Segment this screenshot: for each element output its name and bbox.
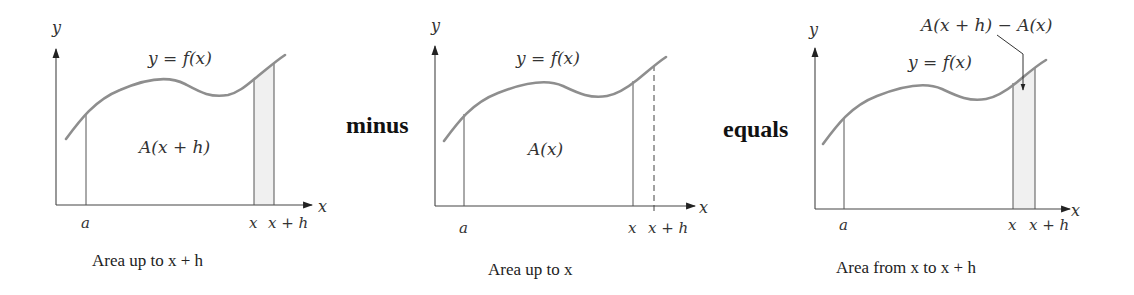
y-axis-label: y xyxy=(808,20,819,39)
tick-label-x: x xyxy=(1008,216,1017,234)
tick-label-x-plus-h: x + h xyxy=(648,219,688,237)
panel-area-up-to-x: y x y = f(x) A(x) a x x + h Area up to x xyxy=(430,16,708,279)
curve-label: y = f(x) xyxy=(147,48,212,68)
x-axis-label: x xyxy=(1071,201,1080,220)
curve-label: y = f(x) xyxy=(515,48,580,68)
operator-minus: minus xyxy=(346,112,409,138)
panel-area-up-to-x-plus-h: y x y = f(x) A(x + h) a x x + h Area up … xyxy=(51,18,327,270)
tick-label-x: x xyxy=(628,219,637,237)
y-axis-label: y xyxy=(430,16,441,35)
tick-label-a: a xyxy=(459,219,468,237)
fundamental-theorem-diagram: y x y = f(x) A(x + h) a x x + h Area up … xyxy=(0,0,1134,295)
caption: Area from x to x + h xyxy=(836,258,976,277)
caption: Area up to x + h xyxy=(92,251,204,270)
operator-equals: equals xyxy=(723,116,788,142)
tick-label-a: a xyxy=(81,214,90,232)
shaded-strip xyxy=(1013,69,1035,209)
tick-label-a: a xyxy=(839,216,848,234)
callout-label: A(x + h) − A(x) xyxy=(919,15,1052,35)
tick-label-x-plus-h: x + h xyxy=(268,214,308,232)
panel-area-from-x-to-x-plus-h: y x y = f(x) A(x + h) − A(x) a x x + h A… xyxy=(808,15,1080,277)
curve-label: y = f(x) xyxy=(907,52,972,72)
caption: Area up to x xyxy=(488,260,573,279)
region-label: A(x + h) xyxy=(137,137,210,157)
tick-label-x-plus-h: x + h xyxy=(1029,216,1069,234)
shaded-strip xyxy=(254,64,274,205)
x-axis-label: x xyxy=(699,198,708,217)
x-axis-label: x xyxy=(318,197,327,216)
region-label: A(x) xyxy=(526,139,563,159)
y-axis-label: y xyxy=(51,18,62,37)
tick-label-x: x xyxy=(249,214,258,232)
